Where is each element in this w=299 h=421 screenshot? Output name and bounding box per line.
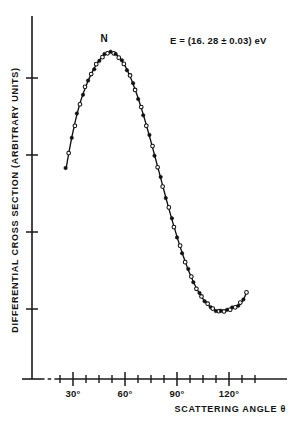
figure-container: 30° 60° 90° 120° SCATTERING ANGLE θ DIFF…: [0, 0, 299, 421]
data-point: [94, 62, 98, 66]
data-point: [117, 56, 121, 60]
x-axis-caption: SCATTERING ANGLE θ: [175, 404, 286, 414]
fitted-curve: [66, 52, 246, 311]
data-point: [86, 79, 90, 83]
data-point: [161, 185, 165, 189]
data-point: [122, 62, 126, 66]
data-point: [141, 113, 145, 117]
scattering-cross-section-plot: 30° 60° 90° 120° SCATTERING ANGLE θ DIFF…: [0, 0, 299, 421]
data-point: [73, 124, 77, 128]
data-point: [172, 225, 176, 229]
data-point: [211, 307, 215, 311]
x-tick-label-60: 60°: [118, 388, 133, 399]
data-point: [206, 302, 210, 306]
data-point: [238, 301, 242, 305]
x-tick-label-30: 30°: [66, 388, 81, 399]
data-point: [78, 102, 82, 106]
data-point: [70, 136, 74, 140]
data-point: [133, 88, 137, 92]
data-point: [136, 97, 140, 101]
data-point: [128, 74, 132, 78]
data-point: [156, 165, 160, 169]
data-point: [180, 252, 184, 256]
y-axis-caption: DIFFERENTIAL CROSS SECTION (ARBITRARY UN…: [10, 67, 20, 332]
data-point: [89, 72, 93, 76]
data-point-markers: [64, 50, 249, 313]
data-point: [153, 154, 157, 158]
data-point: [75, 112, 79, 116]
data-point: [93, 68, 97, 72]
data-point: [164, 196, 168, 200]
data-point: [139, 105, 143, 109]
data-point: [83, 85, 87, 89]
data-point: [144, 124, 148, 128]
data-point: [187, 267, 191, 271]
data-point: [148, 133, 152, 137]
data-point: [167, 206, 171, 210]
data-point: [131, 81, 135, 85]
data-point: [125, 68, 129, 72]
data-point: [159, 175, 163, 179]
data-point: [81, 93, 85, 97]
data-point: [183, 260, 187, 264]
data-point: [178, 244, 182, 248]
data-point: [175, 236, 179, 240]
data-point: [195, 287, 199, 291]
data-point: [190, 275, 194, 279]
data-point: [192, 280, 196, 284]
data-point: [198, 291, 202, 295]
data-point: [200, 295, 204, 299]
data-point: [242, 298, 246, 302]
energy-annotation: E = (16. 28 ± 0.03) eV: [170, 35, 267, 46]
data-point: [120, 59, 124, 63]
x-tick-label-120: 120°: [219, 388, 239, 399]
data-point: [245, 291, 249, 295]
data-point: [98, 59, 102, 63]
data-point: [67, 151, 71, 155]
x-tick-label-90: 90°: [170, 388, 185, 399]
data-point: [64, 166, 68, 170]
data-point: [170, 217, 174, 221]
data-point: [114, 52, 118, 56]
data-point: [151, 144, 155, 148]
peak-label-n: N: [100, 33, 107, 44]
